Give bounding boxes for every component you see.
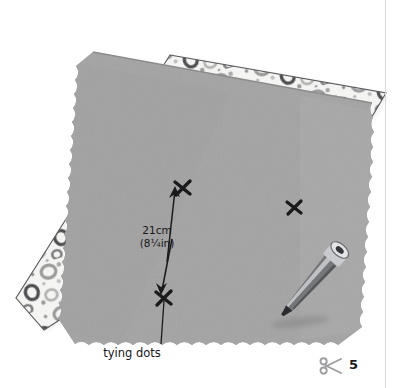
illustration-svg bbox=[0, 0, 393, 388]
grey-fabric-shading-right bbox=[300, 95, 375, 340]
fabric-illustration bbox=[0, 0, 393, 388]
scissors-icon bbox=[321, 358, 342, 373]
page-margin-rule bbox=[385, 0, 386, 388]
